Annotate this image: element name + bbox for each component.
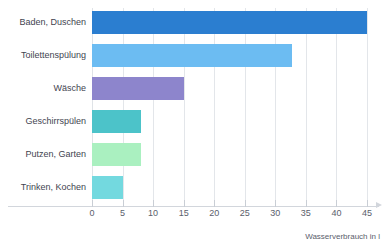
- x-tick: [367, 200, 368, 207]
- plot-area: [92, 8, 367, 206]
- x-tick-label: 10: [138, 208, 168, 218]
- bar: [92, 77, 184, 100]
- x-axis-title: Wasserverbrauch in l: [305, 232, 380, 241]
- x-tick: [123, 200, 124, 207]
- x-tick: [153, 200, 154, 207]
- x-tick-label: 20: [199, 208, 229, 218]
- category-label: Toilettenspülung: [0, 44, 86, 67]
- water-usage-bar-chart: Baden, DuschenToilettenspülungWäscheGesc…: [0, 0, 388, 249]
- x-tick-label: 45: [352, 208, 382, 218]
- x-tick: [275, 200, 276, 207]
- bar-row: [92, 77, 184, 100]
- bar-row: [92, 176, 123, 199]
- bar: [92, 176, 123, 199]
- bar-row: [92, 143, 141, 166]
- category-label: Baden, Duschen: [0, 11, 86, 34]
- x-tick: [336, 200, 337, 207]
- x-tick: [245, 200, 246, 207]
- x-tick: [184, 200, 185, 207]
- category-label: Putzen, Garten: [0, 143, 86, 166]
- x-tick-label: 35: [291, 208, 321, 218]
- bar: [92, 44, 292, 67]
- category-label: Trinken, Kochen: [0, 176, 86, 199]
- category-label: Wäsche: [0, 77, 86, 100]
- category-label: Geschirrspülen: [0, 110, 86, 133]
- x-tick-label: 0: [77, 208, 107, 218]
- bar: [92, 11, 367, 34]
- bar: [92, 110, 141, 133]
- x-tick-label: 30: [260, 208, 290, 218]
- x-tick: [92, 200, 93, 207]
- bar-row: [92, 44, 292, 67]
- x-tick: [306, 200, 307, 207]
- bars-layer: [92, 8, 367, 206]
- x-tick-label: 5: [108, 208, 138, 218]
- bar-row: [92, 11, 367, 34]
- gridline-45: [367, 8, 368, 206]
- x-tick-label: 15: [169, 208, 199, 218]
- x-tick-label: 40: [321, 208, 351, 218]
- bar: [92, 143, 141, 166]
- x-axis-line: [8, 206, 379, 207]
- x-tick: [214, 200, 215, 207]
- x-tick-label: 25: [230, 208, 260, 218]
- bar-row: [92, 110, 141, 133]
